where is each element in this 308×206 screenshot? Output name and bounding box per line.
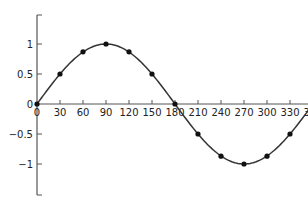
x-tick-label: 270: [234, 107, 253, 118]
data-point: [57, 71, 62, 76]
x-tick-label: 60: [77, 107, 90, 118]
data-point: [241, 161, 246, 166]
y-tick-label: −1: [18, 159, 33, 170]
x-tick-label: 0: [34, 107, 40, 118]
x-ticks: 0306090120150180210240270300330360: [34, 100, 308, 118]
data-point: [126, 49, 131, 54]
data-point: [218, 154, 223, 159]
data-point: [80, 49, 85, 54]
sine-chart: 0306090120150180210240270300330360 10.50…: [0, 0, 308, 206]
x-tick-label: 30: [54, 107, 67, 118]
y-tick-label: 0: [27, 99, 33, 110]
x-tick-label: 150: [142, 107, 161, 118]
y-tick-label: −0.5: [9, 129, 33, 140]
y-tick-label: 0.5: [17, 69, 33, 80]
data-point: [195, 131, 200, 136]
data-point: [172, 101, 177, 106]
data-point: [287, 131, 292, 136]
x-tick-label: 330: [280, 107, 299, 118]
x-tick-label: 210: [188, 107, 207, 118]
axes: [37, 15, 308, 195]
x-tick-label: 240: [211, 107, 230, 118]
x-tick-label: 90: [100, 107, 113, 118]
data-point: [103, 41, 108, 46]
data-point: [34, 101, 39, 106]
x-tick-label: 300: [257, 107, 276, 118]
y-tick-label: 1: [27, 39, 33, 50]
data-point: [264, 154, 269, 159]
x-tick-label: 120: [119, 107, 138, 118]
data-point: [149, 71, 154, 76]
